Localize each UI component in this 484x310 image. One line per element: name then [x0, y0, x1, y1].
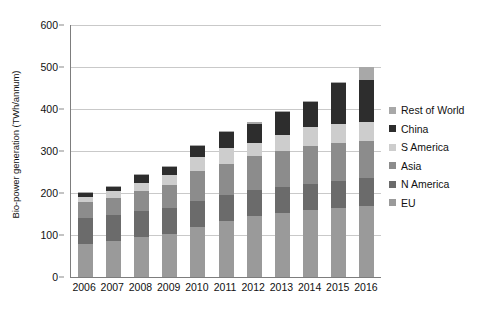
y-tick-mark	[59, 193, 64, 194]
bar-segment-s-america	[331, 124, 346, 144]
legend-item-s-america[interactable]: S America	[389, 138, 481, 157]
bar-segment-china	[303, 102, 318, 127]
legend-label-rest-of-world: Rest of World	[401, 105, 464, 116]
y-tick-label: 300	[40, 145, 58, 157]
legend-item-asia[interactable]: Asia	[389, 157, 481, 176]
bar-segment-s-america	[219, 148, 234, 164]
bar-stack	[106, 186, 121, 278]
x-tick-label-2012: 2012	[239, 281, 267, 301]
bar-segment-asia	[275, 151, 290, 187]
bar-column-2010	[184, 25, 212, 277]
y-tick-label: 600	[40, 19, 58, 31]
legend-label-eu: EU	[401, 198, 416, 209]
bar-segment-eu	[78, 244, 93, 277]
legend-swatch-s-america	[389, 144, 396, 151]
bar-segment-asia	[303, 146, 318, 184]
legend-swatch-asia	[389, 162, 396, 169]
bar-column-2011	[212, 25, 240, 277]
x-tick-label-2015: 2015	[324, 281, 352, 301]
bar-segment-eu	[275, 213, 290, 277]
bar-segment-asia	[359, 141, 374, 179]
legend-swatch-n-america	[389, 181, 396, 188]
bar-segment-china	[359, 80, 374, 122]
bar-segment-s-america	[162, 175, 177, 184]
bar-segment-s-america	[247, 143, 262, 157]
bar-segment-s-america	[190, 157, 205, 171]
legend-item-china[interactable]: China	[389, 120, 481, 139]
bar-segment-china	[134, 175, 149, 183]
bar-segment-n-america	[359, 178, 374, 205]
bar-segment-rest-of-world	[359, 67, 374, 80]
x-tick-label-2009: 2009	[155, 281, 183, 301]
bar-segment-s-america	[134, 183, 149, 191]
legend-item-rest-of-world[interactable]: Rest of World	[389, 101, 481, 120]
legend-label-china: China	[401, 124, 428, 135]
y-axis-title: Bio-power generation (TWh/annum)	[4, 0, 28, 288]
bar-stack	[303, 101, 318, 277]
x-tick-label-2011: 2011	[211, 281, 239, 301]
bar-segment-n-america	[190, 201, 205, 227]
y-tick-label: 200	[40, 187, 58, 199]
bar-segment-china	[190, 146, 205, 157]
bar-stack	[219, 131, 234, 277]
bar-segment-n-america	[78, 218, 93, 244]
bar-segment-s-america	[359, 122, 374, 141]
bar-stack	[78, 192, 93, 277]
bar-column-2016	[353, 25, 381, 277]
bar-stack	[331, 82, 346, 277]
y-tick-label: 400	[40, 103, 58, 115]
bar-segment-eu	[162, 234, 177, 277]
bar-segment-asia	[190, 171, 205, 200]
legend-item-eu[interactable]: EU	[389, 194, 481, 213]
bar-segment-asia	[331, 143, 346, 181]
bar-column-2015	[325, 25, 353, 277]
legend-label-asia: Asia	[401, 161, 421, 172]
chart-legend: Rest of WorldChinaS AmericaAsiaN America…	[389, 101, 481, 212]
bar-stack	[162, 166, 177, 277]
y-tick-mark	[59, 25, 64, 26]
legend-swatch-eu	[389, 199, 396, 206]
bar-column-2012	[240, 25, 268, 277]
bar-stack	[275, 111, 290, 277]
bar-segment-eu	[303, 210, 318, 277]
bar-segment-china	[275, 112, 290, 134]
bio-power-stacked-bar-chart: Bio-power generation (TWh/annum) 0100200…	[0, 0, 484, 310]
x-tick-label-2007: 2007	[98, 281, 126, 301]
x-tick-label-2006: 2006	[70, 281, 98, 301]
bar-segment-n-america	[247, 190, 262, 216]
y-tick-label: 100	[40, 229, 58, 241]
bar-segment-n-america	[219, 195, 234, 221]
x-axis-labels: 2006200720082009201020112012201320142015…	[70, 281, 380, 301]
bar-column-2007	[99, 25, 127, 277]
y-tick-label: 0	[52, 271, 58, 283]
bar-segment-asia	[247, 156, 262, 190]
bar-column-2009	[156, 25, 184, 277]
x-tick-label-2014: 2014	[296, 281, 324, 301]
bar-stack	[247, 122, 262, 277]
bar-column-2014	[297, 25, 325, 277]
bar-segment-eu	[359, 206, 374, 277]
x-tick-label-2016: 2016	[352, 281, 380, 301]
bar-segment-asia	[78, 202, 93, 218]
plot-area	[70, 25, 381, 278]
bar-segment-n-america	[106, 215, 121, 241]
bar-segment-asia	[106, 198, 121, 216]
x-tick-label-2010: 2010	[183, 281, 211, 301]
legend-item-n-america[interactable]: N America	[389, 175, 481, 194]
bar-series-group	[71, 25, 381, 277]
bar-stack	[190, 145, 205, 277]
bar-column-2006	[71, 25, 99, 277]
bar-stack	[134, 174, 149, 277]
bar-segment-eu	[219, 221, 234, 277]
legend-swatch-china	[389, 125, 396, 132]
bar-segment-eu	[190, 227, 205, 277]
x-tick-label-2013: 2013	[267, 281, 295, 301]
bar-segment-china	[219, 132, 234, 148]
y-tick-mark	[59, 109, 64, 110]
bar-segment-asia	[162, 185, 177, 208]
x-tick-label-2008: 2008	[126, 281, 154, 301]
bar-segment-n-america	[331, 181, 346, 207]
bar-segment-eu	[134, 237, 149, 277]
bar-segment-s-america	[275, 135, 290, 152]
y-axis-ticks: 0100200300400500600	[28, 0, 64, 310]
